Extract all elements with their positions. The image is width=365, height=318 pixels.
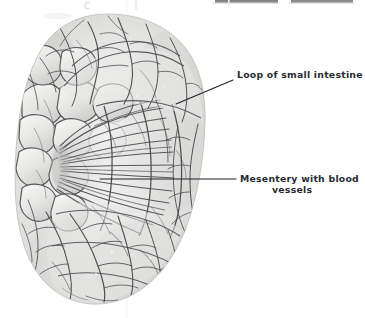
figure-canvas: C	[0, 0, 365, 318]
label-text-mesentery-line1: Mesentery with blood	[240, 173, 359, 184]
label-text-loop: Loop of small intestine	[237, 69, 363, 80]
label-text-mesentery-line2: vessels	[272, 184, 312, 195]
anatomy-figure: C	[0, 0, 365, 318]
partial-glyph-artifact: C	[84, 1, 90, 11]
